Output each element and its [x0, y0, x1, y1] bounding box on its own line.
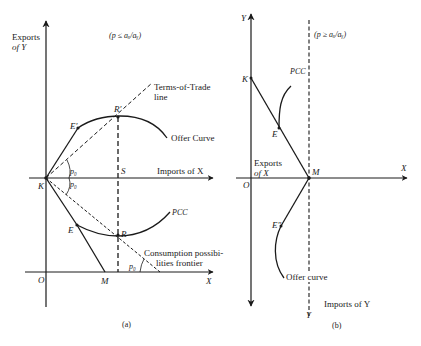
panel-b-label-e-double-prime: E″: [272, 220, 281, 230]
panel-b-label-o: O: [243, 180, 250, 190]
panel-a-angle-arc-bottom: [140, 259, 144, 272]
panel-b-point-m: [307, 176, 311, 180]
panel-a-point-e: [75, 223, 78, 226]
panel-a-label-r-prime: R′: [114, 104, 121, 114]
panel-a-point-k: [44, 176, 48, 180]
panel-a-label-e: E: [68, 225, 74, 235]
panel-a-y-axis-label-line2: of Y: [12, 42, 26, 52]
panel-a-offer-curve: [78, 116, 167, 138]
panel-a-label-m: M: [101, 276, 109, 286]
panel-b-exports-label-line2: of X: [254, 168, 269, 178]
panel-b-offer-curve-label: Offer curve: [285, 272, 329, 282]
panel-b-dashed-bottom-label: Y: [306, 310, 311, 320]
panel-a-angle-label-upper: p₀: [70, 167, 77, 177]
panel-a-pcc-label: PCC: [172, 208, 188, 218]
panel-a-tot-label-line1: Terms-of-Trade: [154, 82, 211, 92]
panel-b-pcc-label: PCC: [290, 67, 306, 77]
panel-a-label-s: S: [121, 166, 126, 176]
panel-b-point-k: [250, 77, 253, 80]
panel-a-angle-label-bottom: p₀: [129, 262, 136, 272]
panel-a-cpf-label-line2: lities frontier: [156, 258, 203, 268]
panel-b-label-m: M: [312, 167, 320, 177]
panel-a-point-r: [116, 233, 119, 236]
panel-a-label-e-prime: E′: [70, 121, 77, 131]
panel-a-e-m-segment: [77, 225, 105, 272]
panel-b-caption: (b): [332, 321, 341, 331]
panel-a-label-r: R: [121, 229, 127, 239]
panel-a-x-label: X: [206, 276, 212, 286]
panel-a-point-r-prime: [116, 115, 119, 118]
panel-a-angle-label-lower: p₀: [70, 180, 77, 190]
panel-b-y-top-label: Y: [241, 13, 246, 23]
panel-a-condition: (p ≤ aₓ/aᵧ): [109, 31, 141, 41]
panel-b-x-label: X: [401, 163, 407, 173]
panel-b-label-e: E: [272, 129, 278, 139]
panel-b-exports-label-line1: Exports: [254, 158, 282, 168]
panel-a-consumption-frontier: [46, 178, 160, 272]
panel-b-offer-curve: [275, 226, 284, 278]
panel-a-tot-label-line2: line: [154, 92, 168, 102]
panel-a-y-axis-label-line1: Exports: [12, 32, 40, 42]
panel-a-label-o: O: [38, 275, 45, 285]
panel-a-cpf-label-line1: Consumption possibi-: [144, 248, 223, 258]
panel-a-imports-label: Imports of X: [157, 166, 204, 176]
diagram-canvas: [0, 0, 421, 346]
panel-b-condition: (p ≥ aₓ/aᵧ): [314, 30, 346, 40]
panel-b-label-k: K: [242, 74, 248, 84]
panel-a-offer-curve-label: Offer Curve: [171, 133, 215, 143]
panel-b-pcc-curve: [279, 86, 291, 128]
panel-b-imports-label: Imports of Y: [324, 299, 370, 309]
panel-b-m-e-double-prime-line: [281, 178, 309, 226]
panel-a-caption: (a): [122, 320, 131, 330]
panel-a-label-k: K: [38, 181, 44, 191]
panel-a-terms-of-trade-line: [46, 83, 152, 178]
